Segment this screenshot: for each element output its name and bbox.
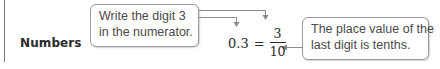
fraction-denominator: 10 (270, 45, 286, 59)
fraction: 3 10 (270, 27, 286, 59)
fraction-numerator: 3 (273, 27, 283, 41)
callout-numerator-hint: Write the digit 3 in the numerator. (90, 4, 199, 47)
arrow-to-numerator-icon (199, 11, 266, 18)
decimal-to-fraction-equation: 0.3 = 3 10 (228, 26, 286, 60)
arrowhead-down-icon (263, 15, 269, 20)
callout-place-value-hint: The place value of the last digit is ten… (302, 17, 429, 60)
callout-line: The place value of the (311, 21, 421, 37)
callout-line: last digit is tenths. (311, 37, 421, 53)
section-label: Numbers (20, 36, 82, 50)
left-margin-rule (4, 0, 5, 62)
fraction-bar (270, 42, 286, 43)
callout-line: in the numerator. (99, 24, 191, 40)
equals-sign: = (254, 36, 265, 51)
arrow-to-decimal-icon (199, 18, 237, 25)
decimal-value: 0.3 (228, 36, 249, 51)
callout-line: Write the digit 3 (99, 8, 191, 24)
